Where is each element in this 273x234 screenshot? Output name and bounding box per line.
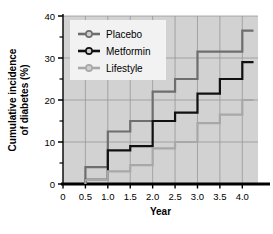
y-tick-label: 30 xyxy=(44,53,55,64)
legend-marker-dot xyxy=(86,65,92,71)
x-tick-label: 2.0 xyxy=(146,191,159,202)
x-tick-label: 3.0 xyxy=(191,191,204,202)
y-tick-label: 40 xyxy=(44,11,55,22)
x-tick-label: 0 xyxy=(60,191,65,202)
incidence-step-chart: 01020304000.51.01.52.02.53.03.54.0YearCu… xyxy=(0,0,273,234)
x-tick-label: 1.5 xyxy=(124,191,137,202)
y-tick-label: 0 xyxy=(50,179,55,190)
y-axis-title-line: of diabetes (%) xyxy=(19,64,30,135)
y-axis-title-line: Cumulative incidence xyxy=(7,48,18,151)
figure: 01020304000.51.01.52.02.53.03.54.0YearCu… xyxy=(0,0,273,234)
x-tick-label: 3.5 xyxy=(213,191,226,202)
y-tick-label: 20 xyxy=(44,95,55,106)
x-axis-title: Year xyxy=(150,206,171,217)
x-tick-label: 0.5 xyxy=(79,191,92,202)
y-tick-label: 10 xyxy=(44,137,55,148)
legend-label-placebo: Placebo xyxy=(106,29,143,40)
legend-label-lifestyle: Lifestyle xyxy=(106,63,143,74)
legend-label-metformin: Metformin xyxy=(106,46,150,57)
x-tick-label: 1.0 xyxy=(101,191,114,202)
x-tick-label: 2.5 xyxy=(168,191,181,202)
legend-marker-dot xyxy=(86,31,92,37)
legend-marker-dot xyxy=(86,48,92,54)
x-tick-label: 4.0 xyxy=(236,191,249,202)
